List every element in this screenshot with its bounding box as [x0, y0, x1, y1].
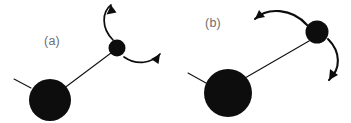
panel-b-label: (b): [205, 16, 221, 30]
panel-b-large-atom: [204, 69, 252, 117]
panel-a-large-atom: [29, 79, 71, 121]
panel-b-small-atom: [306, 21, 329, 44]
diagram-svg: (a) (b): [0, 0, 351, 123]
panel-a-label: (a): [44, 34, 60, 48]
panel-a-small-atom: [109, 40, 126, 57]
figure-canvas: (a) (b): [0, 0, 351, 123]
